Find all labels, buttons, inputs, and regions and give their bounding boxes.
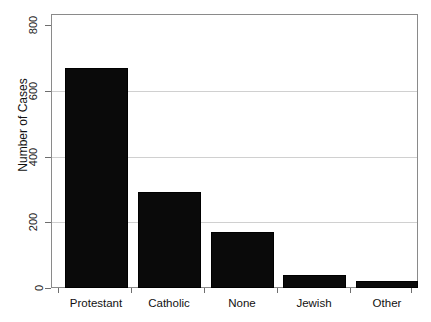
ytick-label-200-text: 200 (27, 213, 39, 231)
xtick-label-none: None (228, 297, 256, 309)
y-axis-title: Number of Cases (16, 55, 30, 195)
xtick-mark-2 (204, 288, 205, 293)
bars-layer (51, 14, 418, 288)
bar-protestant[interactable] (65, 68, 128, 288)
ytick-mark-200 (45, 222, 51, 223)
xtick-mark-3 (277, 288, 278, 293)
xtick-label-jewish: Jewish (296, 297, 331, 309)
bar-chart: 0 200 400 600 800 Number of Cases Protes… (0, 0, 431, 322)
xtick-mark-right (411, 288, 412, 293)
bar-jewish[interactable] (283, 275, 346, 288)
ytick-label-200: 200 (0, 216, 42, 228)
xtick-label-other: Other (373, 297, 402, 309)
xtick-label-catholic: Catholic (148, 297, 190, 309)
xtick-mark-left (58, 288, 59, 293)
ytick-mark-400 (45, 157, 51, 158)
ytick-mark-600 (45, 91, 51, 92)
xtick-mark-4 (350, 288, 351, 293)
bar-other[interactable] (356, 281, 418, 288)
bar-none[interactable] (211, 232, 274, 288)
xtick-mark-1 (131, 288, 132, 293)
xtick-label-protestant: Protestant (70, 297, 122, 309)
ytick-label-0: 0 (0, 282, 42, 294)
bar-catholic[interactable] (138, 192, 201, 288)
ytick-label-0-text: 0 (33, 285, 45, 291)
ytick-mark-800 (45, 25, 51, 26)
ytick-label-800-text: 800 (27, 16, 39, 34)
ytick-mark-0 (45, 288, 51, 289)
ytick-label-800: 800 (0, 19, 42, 31)
